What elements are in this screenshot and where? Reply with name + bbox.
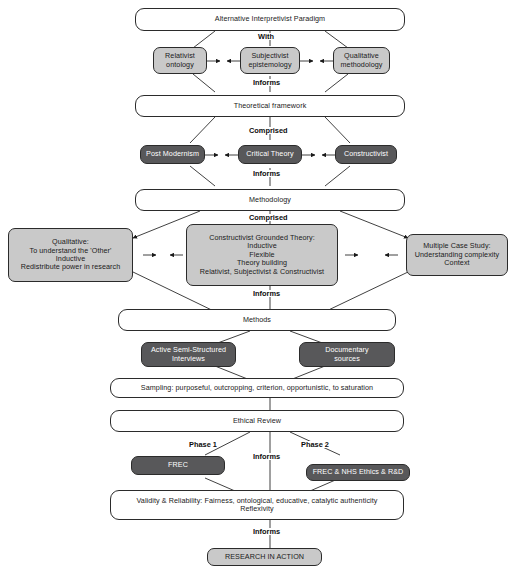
connector-label-informs-5: Informs [251, 528, 282, 535]
node-critical-theory[interactable]: Critical Theory [238, 145, 302, 164]
node-documentary-sources[interactable]: Documentary sources [299, 342, 395, 367]
connector-label-comprised-1: Comprised [247, 127, 290, 134]
flowchart-diagram: Alternative Interpretivist Paradigm Rela… [0, 0, 514, 572]
node-label: Methodology [139, 196, 401, 204]
node-active-semi-structured-interviews[interactable]: Active Semi-Structured Interviews [141, 342, 236, 367]
phase-label-1: Phase 1 [188, 441, 218, 448]
node-label: Validity & Reliability: Fairness, ontolo… [114, 497, 400, 514]
node-label: Critical Theory [242, 150, 298, 158]
node-methods[interactable]: Methods [118, 309, 396, 331]
node-label: FREC & NHS Ethics & R&D [310, 468, 406, 476]
node-subjectivist-epistemology[interactable]: Subjectivist epistemology [240, 47, 300, 74]
node-theoretical-framework[interactable]: Theoretical framework [135, 95, 405, 117]
node-constructivist[interactable]: Constructivist [335, 145, 397, 164]
node-label: RESEARCH IN ACTION [211, 553, 318, 561]
connector-label-comprised-2: Comprised [247, 214, 290, 221]
node-qualitative-detail[interactable]: Qualitative: To understand the 'Other' I… [8, 228, 133, 282]
node-ethical-review[interactable]: Ethical Review [110, 410, 404, 432]
node-label: Relativist ontology [157, 52, 203, 69]
connector-label-with: With [256, 33, 276, 40]
phase-label-2: Phase 2 [300, 441, 330, 448]
node-qualitative-methodology[interactable]: Qualitative methodology [333, 47, 390, 74]
node-research-in-action[interactable]: RESEARCH IN ACTION [207, 548, 322, 566]
connector-label-informs-4: Informs [251, 453, 282, 460]
node-label: Sampling: purposeful, outcropping, crite… [114, 384, 400, 392]
node-alternative-interpretivist-paradigm[interactable]: Alternative Interpretivist Paradigm [135, 8, 405, 31]
node-label: Methods [122, 316, 392, 324]
connector-label-informs-1: Informs [251, 79, 282, 86]
node-label: FREC [135, 461, 221, 469]
node-label: Documentary sources [303, 346, 391, 363]
node-methodology[interactable]: Methodology [135, 189, 405, 211]
node-frec-nhs-ethics-rd[interactable]: FREC & NHS Ethics & R&D [306, 464, 410, 481]
node-multiple-case-study[interactable]: Multiple Case Study: Understanding compl… [406, 234, 508, 276]
node-frec[interactable]: FREC [131, 456, 225, 475]
connector-label-informs-2: Informs [251, 170, 282, 177]
node-label: Alternative Interpretivist Paradigm [139, 15, 401, 23]
connector-label-informs-3: Informs [251, 290, 282, 297]
node-sampling[interactable]: Sampling: purposeful, outcropping, crite… [110, 378, 404, 398]
node-label: Constructivist Grounded Theory: Inductiv… [190, 234, 334, 276]
node-validity-reliability[interactable]: Validity & Reliability: Fairness, ontolo… [110, 490, 404, 520]
node-label: Post Modernism [144, 150, 201, 158]
node-label: Multiple Case Study: Understanding compl… [410, 242, 504, 267]
node-label: Ethical Review [114, 417, 400, 425]
node-label: Qualitative methodology [337, 52, 386, 69]
node-label: Qualitative: To understand the 'Other' I… [12, 238, 129, 271]
node-label: Active Semi-Structured Interviews [145, 346, 232, 363]
node-relativist-ontology[interactable]: Relativist ontology [153, 47, 207, 74]
node-label: Theoretical framework [139, 102, 401, 110]
node-label: Constructivist [339, 150, 393, 158]
node-post-modernism[interactable]: Post Modernism [140, 145, 205, 164]
node-label: Subjectivist epistemology [244, 52, 296, 69]
node-constructivist-grounded-theory[interactable]: Constructivist Grounded Theory: Inductiv… [186, 224, 338, 286]
